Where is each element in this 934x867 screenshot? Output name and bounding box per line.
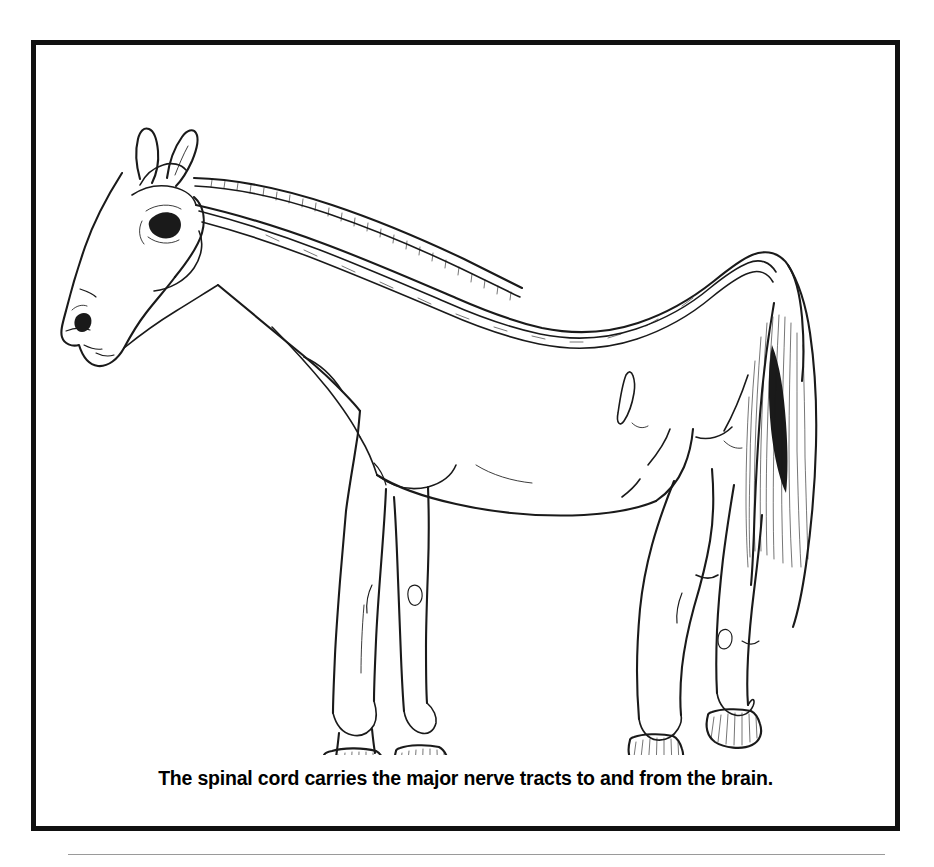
flank-marking [617,372,634,424]
spinal-cord-lower-line [202,222,773,348]
horse-line-drawing-svg [36,45,895,755]
nose-bridge-crease [80,289,96,297]
far-hind-hock-detail [742,641,759,644]
hoof-near-hind [629,734,683,755]
eye-socket-crease [140,221,144,244]
rib-line [476,465,532,483]
near-fetlock [333,701,376,736]
far-chestnut-marking [408,585,422,605]
girth-curve [377,465,456,489]
flank-marking-tip [632,423,648,428]
near-hind-chestnut-marking [718,629,732,648]
tail-root-shadow [769,345,788,493]
stifle-fold [648,429,670,465]
figure-caption: The spinal cord carries the major nerve … [36,767,895,790]
horse-illustration [36,45,895,755]
jowl-curve [175,197,204,277]
mane-hatching [211,180,511,300]
elbow-notch [360,437,377,475]
near-foreleg-rear [374,489,386,701]
far-foreleg-front [394,497,404,711]
near-hock-point [696,575,718,578]
hooves-group [323,709,761,755]
lower-jaw-line [124,285,218,348]
neck-underline [218,285,360,411]
forelegs-group [333,487,436,755]
near-hindleg-rear [680,469,713,715]
footer-rule [68,854,885,855]
spinal-cord-group [199,211,776,348]
far-hindleg-front [716,485,734,693]
hoof-far-fore-hatching [399,749,445,755]
far-fetlock [404,703,436,734]
head-outline [61,173,175,366]
near-knee-crease [367,585,372,613]
mane-upper-edge [194,178,522,288]
hindquarter-line-1 [724,375,748,431]
hoof-far-hind-hatching [711,713,757,745]
topline-outline [196,205,804,381]
near-cannon-line [361,605,364,673]
eye-icon [149,212,181,238]
forearm-muscle-line [374,463,386,485]
eye-upper-lid [146,205,181,211]
horse-head-group [61,128,218,366]
flank-line [656,429,693,501]
far-foreleg-rear [426,487,429,703]
lip-corner-line [84,345,102,349]
shoulder-line [272,327,360,437]
hindquarter-line-3 [724,441,742,448]
page-canvas: The spinal cord carries the major nerve … [0,0,934,867]
chin-groove [96,353,114,356]
figure-frame: The spinal cord carries the major nerve … [31,40,900,831]
near-pastern [336,733,339,755]
muscle-detail-group [272,327,748,497]
hoof-far-fore [395,745,449,755]
underline-detail [622,479,640,497]
brow-ridge [132,186,196,205]
mane-group [194,178,522,300]
near-hock-crease [677,593,682,623]
hoof-near-fore [323,748,386,755]
nostril-crease [72,305,87,310]
cheek-muscle-line [154,231,202,291]
hindlegs-group [637,469,762,740]
hoof-near-fore-hatching [327,752,381,755]
near-hindleg-front [637,481,674,719]
hindquarter-line-2 [696,427,732,439]
near-foreleg-front [333,511,346,713]
